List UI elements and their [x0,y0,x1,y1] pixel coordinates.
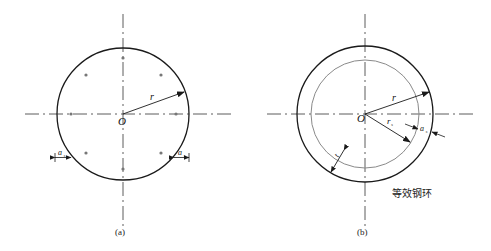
cover-dimension-right: a s [174,148,189,162]
thickness-dimension: t [331,150,344,172]
svg-text:a: a [178,148,182,157]
radius-label: r [392,92,396,103]
svg-text:s: s [426,129,428,134]
caption-b: (b) [357,227,368,237]
radius-label: r [150,91,154,102]
svg-text:a: a [58,148,62,157]
center-label: O [357,112,365,124]
svg-text:a: a [420,124,424,133]
cover-dimension: a s [405,124,445,137]
caption-a: (a) [115,227,125,237]
svg-text:s: s [391,122,393,127]
diagram-canvas: r O a s a s (a) r r s O [0,0,491,251]
svg-text:s: s [184,153,186,158]
panel-b: r r s O a s t 等效钢环 (b) [267,14,475,237]
panel-a: r O a s a s (a) [25,14,231,237]
center-label: O [118,115,126,127]
ring-label: 等效钢环 [392,187,432,199]
svg-text:s: s [64,153,66,158]
cover-dimension-left: a s [55,148,71,162]
